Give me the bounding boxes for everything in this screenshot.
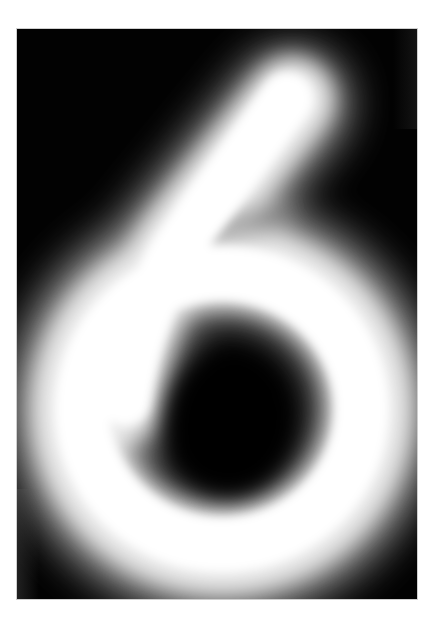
- digit-six-image: [17, 29, 417, 599]
- digit-image-frame: [17, 29, 417, 599]
- scan-noise-right: [393, 29, 417, 129]
- page: [0, 0, 443, 629]
- scan-noise-left: [17, 489, 39, 599]
